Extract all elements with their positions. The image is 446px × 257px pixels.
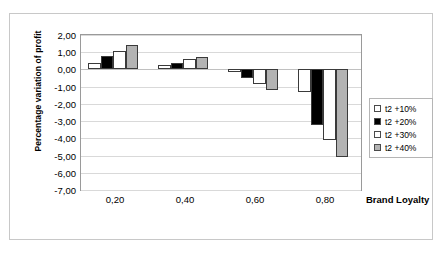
- bar: [196, 57, 209, 69]
- bar: [253, 69, 266, 84]
- legend-label: t2 +20%: [385, 117, 416, 127]
- plot-area: [80, 34, 362, 191]
- bar: [323, 69, 336, 140]
- legend-label: t2 +10%: [385, 104, 416, 114]
- chart-frame: Percentage variation of profit 2,001,000…: [9, 13, 433, 240]
- bar: [228, 69, 241, 72]
- chart-legend: t2 +10%t2 +20%t2 +30%t2 +40%: [369, 98, 433, 158]
- y-axis-tick-label: 0,00: [30, 64, 76, 75]
- x-axis-tick-label: 0,80: [316, 194, 335, 205]
- bar: [171, 63, 184, 70]
- y-axis-tick-label: -2,00: [30, 98, 76, 109]
- y-axis-tick-labels: 2,001,000,00-1,00-2,00-3,00-4,00-5,00-6,…: [30, 27, 76, 191]
- y-axis-tick-label: 2,00: [30, 30, 76, 41]
- legend-swatch-icon: [374, 131, 381, 138]
- y-axis-tick-label: -4,00: [30, 133, 76, 144]
- bar: [88, 63, 101, 70]
- y-axis-tick-label: -1,00: [30, 81, 76, 92]
- gridline: [81, 190, 361, 191]
- legend-item[interactable]: t2 +10%: [374, 102, 429, 115]
- x-axis-tick-label: 0,40: [176, 194, 195, 205]
- x-axis-tick-labels: 0,200,400,600,80: [80, 194, 362, 208]
- legend-swatch-icon: [374, 118, 381, 125]
- bar: [158, 65, 171, 69]
- bar: [183, 59, 196, 69]
- x-axis-tick-label: 0,20: [106, 194, 125, 205]
- legend-item[interactable]: t2 +20%: [374, 115, 429, 128]
- bar: [336, 69, 349, 157]
- legend-item[interactable]: t2 +40%: [374, 141, 429, 154]
- bar: [126, 45, 139, 69]
- bar: [101, 56, 114, 70]
- legend-swatch-icon: [374, 144, 381, 151]
- bars-layer: [81, 35, 361, 190]
- bar: [298, 69, 311, 91]
- x-axis-tick-label: 0,60: [246, 194, 265, 205]
- y-axis-tick-label: 1,00: [30, 47, 76, 58]
- bar: [241, 69, 254, 78]
- legend-label: t2 +40%: [385, 143, 416, 153]
- bar: [266, 69, 279, 90]
- x-axis-title: Brand Loyalty: [366, 194, 429, 205]
- y-axis-tick-label: -3,00: [30, 116, 76, 127]
- legend-swatch-icon: [374, 105, 381, 112]
- legend-label: t2 +30%: [385, 130, 416, 140]
- bar: [113, 51, 126, 70]
- y-axis-tick-label: -7,00: [30, 185, 76, 196]
- y-axis-tick-label: -6,00: [30, 167, 76, 178]
- bar: [311, 69, 324, 124]
- y-axis-tick-label: -5,00: [30, 150, 76, 161]
- legend-item[interactable]: t2 +30%: [374, 128, 429, 141]
